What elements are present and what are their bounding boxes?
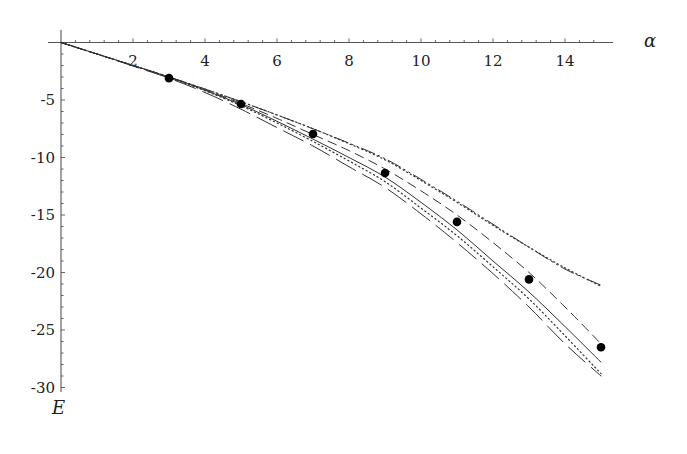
data-point xyxy=(381,169,390,178)
x-tick-label: 6 xyxy=(272,52,282,70)
y-tick-label: -30 xyxy=(31,379,55,397)
series-group xyxy=(61,43,601,377)
plot-area: 2468101214-5-10-15-20-25-30 α E xyxy=(0,0,687,454)
x-tick-label: 10 xyxy=(411,52,430,70)
chart: 2468101214-5-10-15-20-25-30 α E xyxy=(0,0,687,454)
series-lower-dotted xyxy=(61,43,601,374)
series-long-dashed xyxy=(61,43,601,377)
data-point xyxy=(453,218,462,227)
axes: 2468101214-5-10-15-20-25-30 xyxy=(31,30,613,397)
y-axis-title: E xyxy=(51,397,65,418)
series-solid xyxy=(61,43,601,363)
data-point xyxy=(525,275,534,284)
y-tick-label: -25 xyxy=(31,321,55,339)
series-upper-dotted xyxy=(61,43,601,287)
data-points xyxy=(165,74,606,352)
data-point xyxy=(597,343,606,352)
x-axis-title: α xyxy=(644,30,656,51)
x-tick-label: 12 xyxy=(483,52,502,70)
y-tick-label: -20 xyxy=(31,264,55,282)
data-point xyxy=(237,100,246,109)
y-tick-label: -15 xyxy=(31,206,55,224)
y-tick-label: -10 xyxy=(31,149,55,167)
y-tick-label: -5 xyxy=(40,91,55,109)
data-point xyxy=(165,74,174,83)
x-tick-label: 8 xyxy=(344,52,354,70)
x-tick-label: 4 xyxy=(200,52,210,70)
data-point xyxy=(309,130,318,139)
x-tick-label: 14 xyxy=(555,52,574,70)
series-upper-dash-dot xyxy=(61,43,601,286)
